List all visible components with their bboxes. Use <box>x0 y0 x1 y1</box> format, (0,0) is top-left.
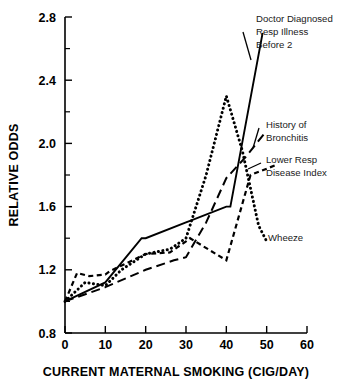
y-ticks <box>65 17 72 333</box>
y-tick-label: 2.4 <box>39 74 56 88</box>
x-tick-label: 30 <box>179 338 193 352</box>
series-history-of-bronchitis <box>65 131 267 302</box>
series-wheeze <box>65 96 267 301</box>
annotation-wheeze: Wheeze <box>268 232 303 243</box>
relative-odds-line-chart: 0.81.21.62.02.42.8 0102030405060 CURRENT… <box>0 0 355 390</box>
chart-figure: 0.81.21.62.02.42.8 0102030405060 CURRENT… <box>0 0 355 390</box>
annotation-lrdi-line1: Lower Resp <box>266 154 317 165</box>
series-group <box>65 33 275 302</box>
x-tick-labels: 0102030405060 <box>62 338 314 352</box>
annotation-wheeze-line1: Wheeze <box>268 232 303 243</box>
annotation-lrdi: Lower Resp Disease Index <box>266 154 327 178</box>
y-axis-title: RELATIVE ODDS <box>7 123 21 226</box>
x-tick-label: 10 <box>98 338 112 352</box>
x-tick-label: 60 <box>300 338 314 352</box>
leader-ddri <box>243 32 251 60</box>
series-lower-resp-disease-index <box>65 166 275 302</box>
x-axis-title: CURRENT MATERNAL SMOKING (CIG/DAY) <box>43 365 309 379</box>
y-tick-labels: 0.81.21.62.02.42.8 <box>39 11 56 341</box>
x-tick-label: 50 <box>260 338 274 352</box>
series-doctor-diagnosed-resp-illness-before-2 <box>65 33 263 302</box>
leader-lrdi <box>248 163 261 169</box>
y-tick-label: 2.8 <box>39 11 56 25</box>
y-tick-label: 1.6 <box>39 200 56 214</box>
annotation-ddri-line2: Resp Illness <box>256 26 308 37</box>
y-tick-label: 2.0 <box>39 137 56 151</box>
annotation-ddri-line1: Doctor Diagnosed <box>256 13 333 24</box>
leader-bronchitis <box>253 128 259 148</box>
x-ticks <box>65 326 307 333</box>
annotation-bronchitis-line1: History of <box>266 119 307 130</box>
y-tick-label: 1.2 <box>39 263 56 277</box>
x-tick-label: 40 <box>219 338 233 352</box>
annotation-ddri: Doctor Diagnosed Resp Illness Before 2 <box>256 13 333 50</box>
annotation-bronchitis-line2: Bronchitis <box>266 132 308 143</box>
annotation-lrdi-line2: Disease Index <box>266 167 327 178</box>
y-tick-label: 0.8 <box>39 327 56 341</box>
annotation-bronchitis: History of Bronchitis <box>266 119 308 143</box>
x-tick-label: 20 <box>139 338 153 352</box>
annotation-ddri-line3: Before 2 <box>256 39 292 50</box>
x-tick-label: 0 <box>62 338 69 352</box>
